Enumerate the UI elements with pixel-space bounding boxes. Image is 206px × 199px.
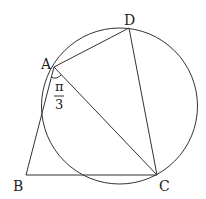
circumcircle [42,28,198,184]
segment-dc [129,28,157,175]
angle-arc-a [52,75,62,78]
label-d: D [124,12,135,28]
segment-ad [54,28,129,67]
label-b: B [13,178,23,194]
geometry-diagram: A B C D π 3 [0,0,206,199]
label-c: C [159,178,170,194]
label-a: A [40,56,52,72]
segment-ac [54,67,157,175]
angle-denominator: 3 [55,97,63,112]
angle-numerator: π [55,79,64,94]
segment-ab [26,67,54,175]
